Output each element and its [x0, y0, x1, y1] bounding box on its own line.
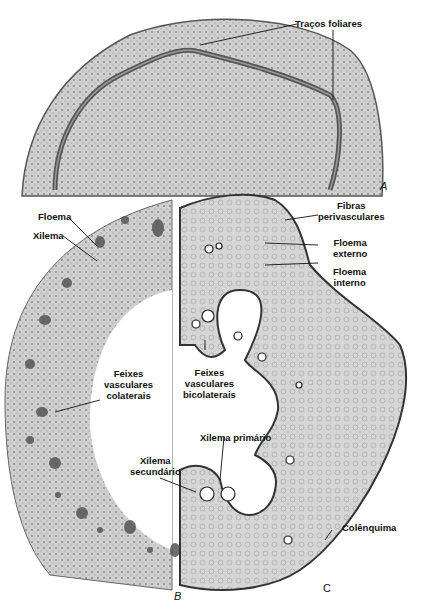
label-floema-interno: Floema interno [333, 266, 366, 288]
panel-letter-a: A [380, 180, 387, 192]
label-floema: Floema [38, 211, 71, 222]
panel-b [5, 200, 180, 590]
panel-letter-b: B [174, 590, 181, 602]
micrograph-figure [0, 0, 422, 610]
label-xilema-primario: Xilema primário [200, 432, 271, 443]
label-colenquima: Colênquima [342, 522, 396, 533]
label-feixes-colaterais: Feixes vasculares colaterais [104, 368, 153, 401]
panel-letter-c: C [323, 582, 331, 594]
label-tracos-foliares: Traços foliares [295, 18, 362, 29]
label-feixes-bicolaterais: Feixes vasculares bicolaterais [183, 367, 236, 400]
label-xilema: Xilema [33, 230, 64, 241]
label-floema-externo: Floema externo [333, 237, 367, 259]
label-xilema-secundario: Xilema secundário [130, 455, 181, 477]
label-fibras-perivasculares: Fibras perivasculares [318, 200, 385, 222]
panel-a [22, 19, 383, 196]
